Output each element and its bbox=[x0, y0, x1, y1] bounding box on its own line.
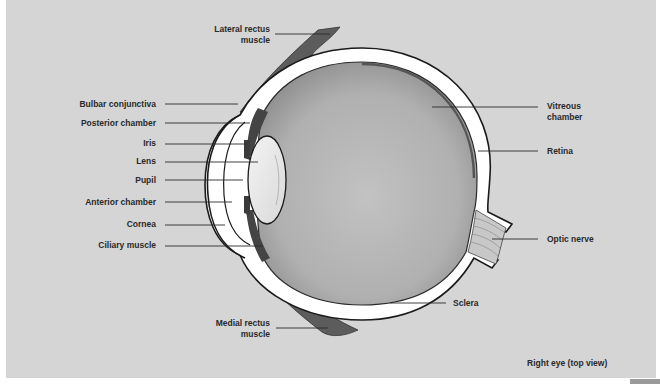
iris-lower bbox=[244, 196, 250, 215]
label-line-2: muscle bbox=[200, 329, 270, 340]
label-posterior-chamber: Posterior chamber bbox=[60, 118, 156, 129]
label-vitreous-chamber: Vitreous chamber bbox=[547, 101, 582, 123]
label-iris: Iris bbox=[60, 138, 156, 149]
label-bulbar-conjunctiva: Bulbar conjunctiva bbox=[60, 99, 156, 110]
label-sclera: Sclera bbox=[453, 298, 479, 309]
label-line-1: Vitreous bbox=[547, 101, 582, 112]
lens bbox=[248, 136, 286, 224]
label-line-2: chamber bbox=[547, 112, 582, 123]
label-cornea: Cornea bbox=[60, 219, 156, 230]
label-lateral-rectus-muscle: Lateral rectus muscle bbox=[200, 24, 270, 46]
label-medial-rectus-muscle: Medial rectus muscle bbox=[200, 318, 270, 340]
label-anterior-chamber: Anterior chamber bbox=[60, 197, 156, 208]
label-retina: Retina bbox=[547, 146, 573, 157]
label-line-2: muscle bbox=[200, 35, 270, 46]
label-pupil: Pupil bbox=[60, 175, 156, 186]
cornea bbox=[207, 115, 245, 258]
label-lens: Lens bbox=[60, 156, 156, 167]
label-optic-nerve: Optic nerve bbox=[547, 234, 594, 245]
label-ciliary-muscle: Ciliary muscle bbox=[60, 240, 156, 251]
label-line-1: Lateral rectus bbox=[200, 24, 270, 35]
diagram-caption: Right eye (top view) bbox=[527, 358, 607, 368]
eye-diagram bbox=[0, 0, 660, 384]
label-line-1: Medial rectus bbox=[200, 318, 270, 329]
iris-upper bbox=[244, 140, 250, 160]
